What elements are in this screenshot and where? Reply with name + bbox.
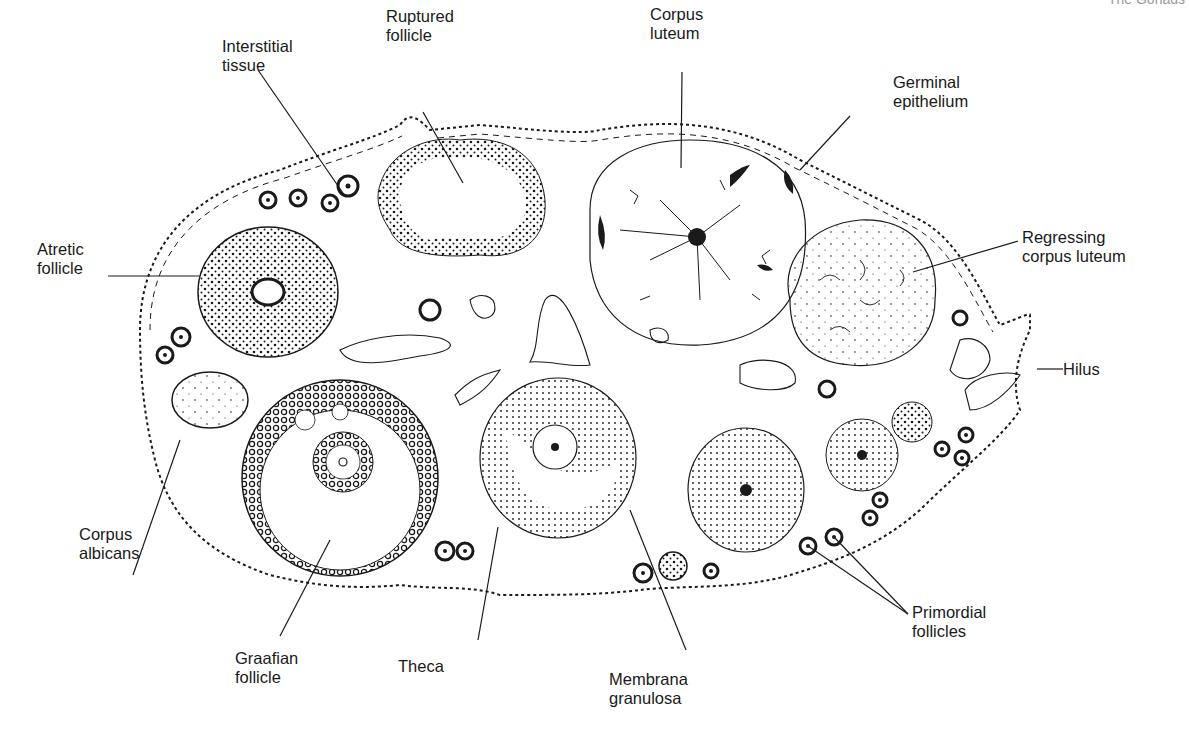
- label-atretic-follicle: Atretic follicle: [37, 240, 84, 278]
- growing-follicle: [688, 428, 804, 552]
- ovary-illustration: [0, 0, 1189, 734]
- corpus-albicans: [172, 372, 248, 428]
- corpus-luteum: [590, 140, 806, 345]
- secondary-follicle: [480, 378, 636, 538]
- label-theca: Theca: [398, 657, 444, 676]
- label-graafian-follicle: Graafian follicle: [235, 649, 298, 687]
- label-corpus-luteum: Corpus luteum: [650, 5, 703, 43]
- ruptured-follicle: [378, 139, 545, 256]
- label-ruptured-follicle: Ruptured follicle: [386, 7, 454, 45]
- label-interstitial-tissue: Interstitial tissue: [222, 37, 293, 75]
- label-primordial-follicles: Primordial follicles: [912, 603, 986, 641]
- label-germinal-epithelium: Germinal epithelium: [893, 73, 968, 111]
- label-hilus: Hilus: [1063, 360, 1100, 379]
- label-corpus-albicans: Corpus albicans: [79, 525, 140, 563]
- label-regressing-corpus-luteum: Regressing corpus luteum: [1022, 228, 1126, 266]
- leader-lines: [108, 70, 1063, 650]
- atretic-follicle: [198, 227, 338, 357]
- small-follicle: [826, 402, 932, 491]
- regressing-corpus-luteum: [788, 220, 935, 366]
- graafian-follicle: [242, 380, 438, 576]
- label-membrana-granulosa: Membrana granulosa: [609, 670, 688, 708]
